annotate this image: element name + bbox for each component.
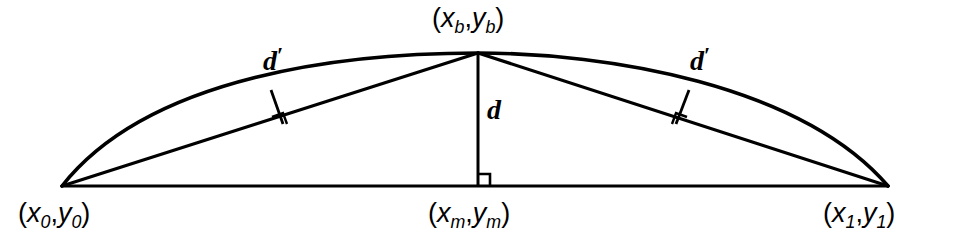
label-point-m-x-sub: m: [451, 212, 466, 232]
label-point-0-x-sub: 0: [41, 212, 51, 232]
label-point-m-open-paren: (: [428, 198, 437, 228]
label-d-prime-left-mark: ′: [277, 43, 283, 68]
label-point-b-x-var: x: [441, 3, 455, 33]
label-point-1-x-var: x: [832, 198, 846, 228]
label-point-b: (xb,yb): [432, 5, 504, 37]
label-point-m-x-var: x: [437, 198, 451, 228]
label-point-0-comma: ,: [50, 198, 58, 228]
label-d-prime-left-letter: d: [263, 45, 277, 76]
label-d-prime-right: d′: [690, 45, 710, 75]
label-d-prime-right-letter: d: [690, 45, 704, 76]
label-d-prime-right-mark: ′: [704, 43, 710, 68]
label-point-0-close-paren: ): [81, 198, 90, 228]
arc-curve: [62, 53, 888, 186]
label-d-mid: d: [487, 96, 501, 124]
label-point-m-comma: ,: [465, 198, 473, 228]
label-point-1-x-sub: 1: [846, 212, 856, 232]
label-point-b-y-sub: b: [485, 17, 495, 37]
label-point-m-y-var: y: [473, 198, 487, 228]
label-point-1-open-paren: (: [823, 198, 832, 228]
label-point-0: (x0,y0): [18, 200, 90, 232]
label-point-b-close-paren: ): [495, 3, 504, 33]
label-point-b-comma: ,: [464, 3, 472, 33]
label-point-m-y-sub: m: [486, 212, 501, 232]
right-angle-marker-midpoint: [478, 174, 490, 186]
label-point-b-x-sub: b: [455, 17, 465, 37]
label-point-1-y-var: y: [863, 198, 877, 228]
label-point-b-y-var: y: [472, 3, 486, 33]
label-point-m: (xm,ym): [428, 200, 510, 232]
label-point-m-close-paren: ): [501, 198, 510, 228]
right-chord-segment: [478, 53, 888, 186]
label-point-0-y-sub: 0: [71, 212, 81, 232]
label-point-1-y-sub: 1: [876, 212, 886, 232]
label-point-0-y-var: y: [58, 198, 72, 228]
label-point-0-x-var: x: [27, 198, 41, 228]
label-point-1: (x1,y1): [823, 200, 895, 232]
label-point-1-comma: ,: [855, 198, 863, 228]
label-point-1-close-paren: ): [886, 198, 895, 228]
label-d-prime-left: d′: [263, 45, 283, 75]
label-point-b-open-paren: (: [432, 3, 441, 33]
label-point-0-open-paren: (: [18, 198, 27, 228]
arc-deviation-diagram: (xb,yb) (x0,y0) (xm,ym) (x1,y1) d′ d′ d: [0, 0, 953, 250]
